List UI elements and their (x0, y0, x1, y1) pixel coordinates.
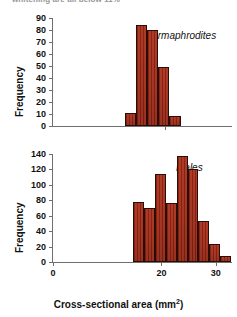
y-tick-label: 80 (36, 196, 46, 205)
y-tick-mark (49, 185, 53, 186)
y-tick-label: 90 (36, 14, 46, 23)
histogram-bar (209, 244, 220, 262)
y-tick-mark (49, 114, 53, 115)
x-axis-title-main: Cross-sectional area (mm (54, 299, 176, 310)
x-tick-mark (53, 262, 54, 266)
y-tick-mark (49, 78, 53, 79)
histogram-bar (188, 169, 199, 262)
y-tick-label: 20 (36, 243, 46, 252)
y-tick-mark (49, 231, 53, 232)
plot-area-males: 020406080100120140 02030 (0, 148, 237, 278)
histogram-bar (198, 221, 209, 262)
x-tick-mark (216, 262, 217, 266)
y-tick-label: 40 (36, 227, 46, 236)
histogram-bar (147, 30, 158, 126)
y-tick-mark (49, 66, 53, 67)
y-tick-label: 20 (36, 98, 46, 107)
y-tick-label: 120 (31, 165, 46, 174)
x-tick-mark (165, 126, 166, 130)
histogram-bar (169, 116, 180, 126)
y-tick-label: 50 (36, 62, 46, 71)
y-tick-mark (49, 169, 53, 170)
y-tick-label: 40 (36, 74, 46, 83)
y-tick-mark (49, 216, 53, 217)
bar-group-males (53, 154, 232, 262)
y-tick-mark (49, 54, 53, 55)
histogram-bar (136, 25, 147, 126)
y-tick-label: 140 (31, 150, 46, 159)
bar-group-hermaphrodites (53, 18, 232, 126)
histogram-bar (155, 174, 166, 262)
y-tick-mark (49, 102, 53, 103)
histogram-bar (133, 202, 144, 262)
y-tick-label: 100 (31, 181, 46, 190)
x-tick-label: 30 (201, 269, 231, 278)
y-tick-label: 70 (36, 38, 46, 47)
histogram-bar (125, 113, 136, 126)
y-tick-label: 10 (36, 110, 46, 119)
histogram-bar (220, 256, 231, 262)
y-tick-label: 30 (36, 86, 46, 95)
histogram-bar (166, 203, 177, 262)
y-tick-mark (49, 247, 53, 248)
y-tick-mark (49, 90, 53, 91)
y-tick-label: 0 (41, 258, 46, 267)
x-tick-mark (161, 262, 162, 266)
histogram-bar (144, 208, 155, 262)
y-tick-mark (49, 126, 53, 127)
y-tick-label: 80 (36, 26, 46, 35)
x-axis-line-hermaphrodites (52, 126, 232, 127)
x-tick-label: 0 (38, 269, 68, 278)
y-tick-label: 60 (36, 50, 46, 59)
plot-area-hermaphrodites: 0102030405060708090 (0, 12, 237, 142)
x-axis-title-males: Cross-sectional area (mm2) (0, 298, 237, 310)
chart-males: Frequency Males 020406080100120140 02030… (0, 148, 237, 317)
y-tick-mark (49, 18, 53, 19)
x-axis-title-close: ) (180, 299, 183, 310)
y-tick-mark (49, 30, 53, 31)
y-tick-mark (49, 200, 53, 201)
histogram-bar (158, 67, 169, 126)
x-axis-line-males (52, 262, 232, 263)
y-tick-mark (49, 154, 53, 155)
chart-hermaphrodites: Frequency Hermaphrodites 010203040506070… (0, 12, 237, 142)
clipped-caption-text: whitening are all below 11% (12, 0, 162, 4)
histogram-bar (177, 156, 188, 262)
x-tick-label: 20 (146, 269, 176, 278)
y-tick-label: 60 (36, 212, 46, 221)
figure-root: whitening are all below 11% Frequency He… (0, 0, 237, 317)
y-tick-mark (49, 42, 53, 43)
y-tick-label: 0 (41, 122, 46, 131)
